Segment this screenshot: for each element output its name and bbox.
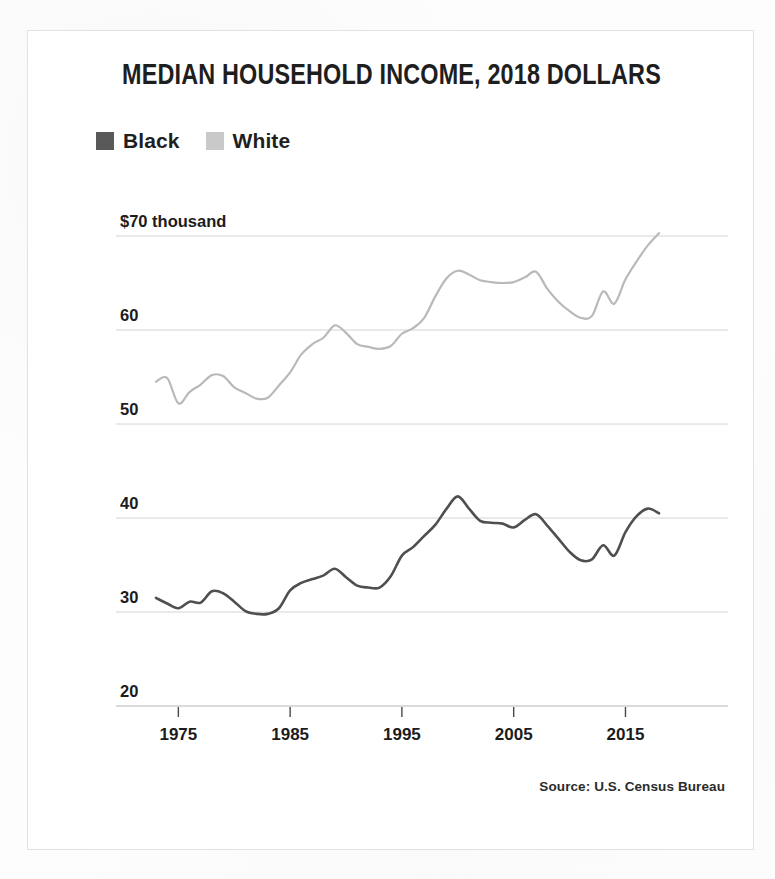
x-axis-labels-group: 19751985199520052015 [159, 725, 644, 744]
chart-card: MEDIAN HOUSEHOLD INCOME, 2018 DOLLARS Bl… [27, 30, 754, 850]
y-axis-tick-label: $70 thousand [120, 212, 226, 230]
series-line-black [156, 496, 659, 614]
x-axis-tick-label: 1985 [271, 725, 309, 744]
y-axis-tick-label: 30 [120, 588, 138, 606]
x-axis-tick-label: 1995 [383, 725, 421, 744]
y-axis-tick-label: 20 [120, 682, 138, 700]
chart-figure: MEDIAN HOUSEHOLD INCOME, 2018 DOLLARS Bl… [0, 0, 775, 879]
y-axis-tick-label: 60 [120, 306, 138, 324]
gridlines-group [116, 236, 728, 706]
x-axis-tick-label: 1975 [159, 725, 197, 744]
plot-area: $70 thousand6050403020 19751985199520052… [28, 31, 755, 851]
y-axis-labels-group: $70 thousand6050403020 [120, 212, 226, 700]
x-axis-ticks-group [178, 707, 625, 717]
x-axis-tick-label: 2005 [495, 725, 533, 744]
y-axis-tick-label: 50 [120, 400, 138, 418]
y-axis-tick-label: 40 [120, 494, 138, 512]
series-line-white [156, 233, 659, 403]
x-axis-tick-label: 2015 [607, 725, 645, 744]
source-note: Source: U.S. Census Bureau [539, 779, 725, 794]
